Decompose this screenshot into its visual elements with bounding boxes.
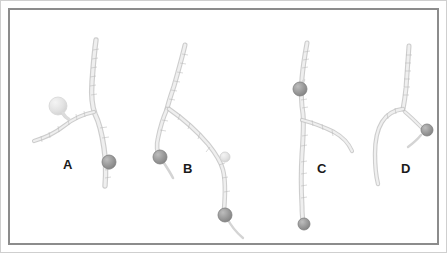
panel-label-d: D: [401, 162, 411, 175]
marker-panel-c-sphere-lower: [298, 218, 310, 230]
marker-panel-c-sphere-upper: [293, 82, 307, 96]
figure-canvas: A B C D: [10, 10, 437, 243]
panel-d-vessel: [375, 46, 422, 184]
marker-panel-d-sphere: [421, 124, 433, 136]
panel-label-c: C: [317, 162, 327, 175]
marker-panel-a-aneurysm-bulb: [49, 97, 69, 119]
panel-label-a: A: [63, 158, 73, 171]
panel-c-vessel: [298, 43, 352, 226]
panel-label-b: B: [183, 162, 193, 175]
marker-panel-b-aneurysm-bulb: [220, 152, 230, 162]
figure-root: A B C D: [0, 0, 447, 253]
panel-b-vessel: [157, 45, 243, 238]
marker-panel-b-sphere-left: [153, 150, 167, 164]
marker-panel-b-sphere-lower: [218, 208, 232, 222]
vessel-illustration: [10, 10, 437, 243]
marker-panel-a-sphere: [102, 155, 116, 169]
